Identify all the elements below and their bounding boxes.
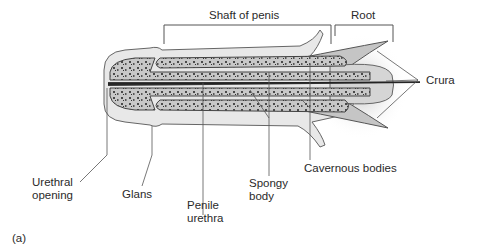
label-cavernous-bodies: Cavernous bodies	[304, 162, 397, 175]
label-glans: Glans	[122, 188, 152, 201]
bulb	[330, 64, 394, 104]
label-shaft-of-penis: Shaft of penis	[209, 9, 279, 22]
label-penile-urethra-line1: Penile	[187, 199, 219, 212]
label-spongy-body-line1: Spongy	[249, 177, 288, 190]
anatomy-illustration	[0, 0, 480, 247]
label-penile-urethra-line2: urethra	[187, 212, 223, 225]
cavernous-body-lower	[156, 100, 349, 112]
label-spongy-body-line2: body	[249, 190, 274, 203]
label-root: Root	[351, 9, 375, 22]
label-crura: Crura	[426, 74, 455, 87]
label-urethral-opening-line1: Urethral	[32, 176, 73, 189]
label-urethral-opening-line2: opening	[32, 189, 73, 202]
shaft-bracket	[164, 25, 331, 44]
cavernous-body-upper	[156, 56, 347, 68]
panel-label: (a)	[12, 232, 26, 245]
